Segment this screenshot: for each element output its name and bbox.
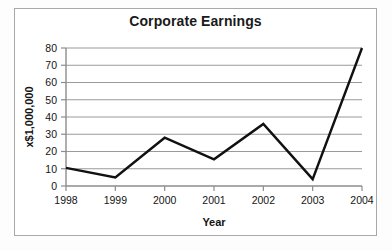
x-axis-tick-label: 2001 [202,194,226,206]
y-axis-title: x$1,000,000 [23,86,35,147]
y-axis-tick-label: 20 [45,145,57,157]
y-axis-tick-label: 70 [45,59,57,71]
x-axis-ticks-group [66,186,362,191]
y-axis-tick-label: 60 [45,76,57,88]
x-axis-tick-label: 2000 [153,194,177,206]
y-axis-ticks-group [61,48,66,186]
chart-figure: Corporate Earnings 01020304050607080 199… [0,0,392,251]
y-axis-tick-label: 10 [45,163,57,175]
x-axis-tick-label: 2003 [301,194,325,206]
y-axis-tick-label: 50 [45,94,57,106]
y-axis-tick-labels: 01020304050607080 [45,42,57,192]
y-axis-tick-label: 80 [45,42,57,54]
data-series-line [66,48,362,179]
x-axis-tick-label: 2002 [252,194,276,206]
gridlines-group [66,48,362,169]
x-axis-title: Year [202,216,226,228]
x-axis-tick-label: 1999 [104,194,128,206]
x-axis-tick-labels: 1998199920002001200220032004 [54,194,374,206]
y-axis-tick-label: 30 [45,128,57,140]
y-axis-tick-label: 0 [51,180,57,192]
y-axis-tick-label: 40 [45,111,57,123]
line-chart-plot: 01020304050607080 1998199920002001200220… [0,0,392,251]
x-axis-tick-label: 2004 [350,194,374,206]
x-axis-tick-label: 1998 [54,194,78,206]
